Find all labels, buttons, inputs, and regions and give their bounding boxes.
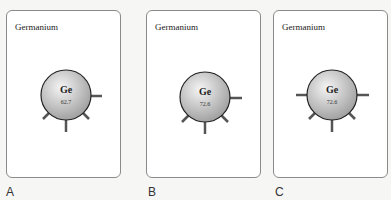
element-symbol: Ge — [60, 84, 73, 95]
panel-label-b: B — [148, 185, 156, 199]
card-c: Germanium Ge 72.6 — [273, 10, 388, 178]
germanium-atom-diagram: Ge 62.7 — [7, 11, 122, 179]
element-value: 72.6 — [200, 101, 211, 107]
card-a: Germanium Ge 62.7 — [6, 10, 121, 178]
germanium-atom-diagram: Ge 72.6 — [274, 11, 389, 179]
germanium-atom-diagram: Ge 72.6 — [147, 11, 262, 179]
element-value: 62.7 — [61, 99, 72, 105]
panel-label-c: C — [275, 185, 284, 199]
element-value: 72.6 — [327, 99, 338, 105]
panel-label-a: A — [6, 185, 14, 199]
element-symbol: Ge — [199, 86, 212, 97]
element-symbol: Ge — [326, 84, 339, 95]
card-b: Germanium Ge 72.6 — [146, 10, 261, 178]
